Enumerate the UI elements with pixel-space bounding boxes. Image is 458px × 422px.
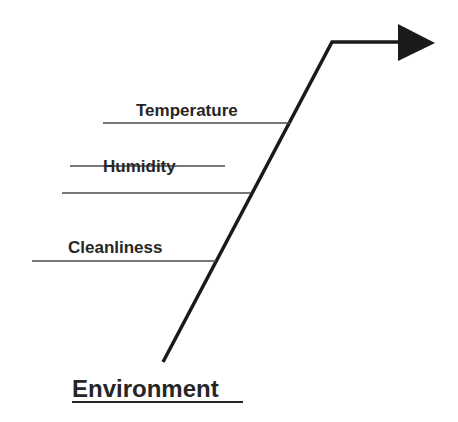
category-title: Environment — [72, 375, 219, 402]
cause-label-temperature: Temperature — [136, 101, 238, 120]
cause-label-cleanliness: Cleanliness — [68, 238, 163, 257]
cause-label-humidity: Humidity — [103, 157, 176, 176]
category-spine — [163, 42, 400, 362]
fishbone-diagram: Temperature Humidity Cleanliness Environ… — [0, 0, 458, 422]
arrowhead-icon — [398, 24, 435, 61]
